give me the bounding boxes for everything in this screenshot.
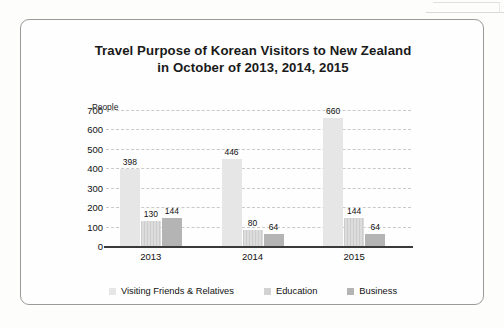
legend-label: Education bbox=[276, 286, 317, 296]
y-axis-tick-labels: 0100200300400500600700 bbox=[73, 110, 103, 246]
bar-value-label: 80 bbox=[248, 218, 257, 228]
bar-value-label: 130 bbox=[144, 209, 158, 219]
bar-value-label: 144 bbox=[165, 206, 179, 216]
x-axis-tick-label: 2013 bbox=[140, 251, 161, 262]
bar[interactable] bbox=[120, 169, 140, 246]
bar-value-label: 144 bbox=[347, 206, 361, 216]
bar[interactable] bbox=[365, 234, 385, 246]
bar[interactable] bbox=[243, 230, 263, 246]
bar[interactable] bbox=[323, 118, 343, 246]
legend-label: Business bbox=[359, 286, 397, 296]
scan-edge-artifact bbox=[433, 2, 500, 12]
bar-value-label: 446 bbox=[224, 147, 238, 157]
bar-group: 4468064 bbox=[222, 110, 284, 246]
y-axis-tick-label: 100 bbox=[87, 221, 103, 232]
legend-label: Visiting Friends & Relatives bbox=[121, 286, 234, 296]
x-axis-tick-labels: 201320142015 bbox=[106, 251, 411, 265]
scan-edge-artifact-line bbox=[426, 12, 504, 13]
plot-area: People 0100200300400500600700 3981301444… bbox=[21, 20, 485, 306]
x-axis-line bbox=[104, 246, 413, 248]
y-axis-tick-label: 500 bbox=[87, 143, 103, 154]
legend-item[interactable]: Education bbox=[264, 286, 317, 296]
bar-value-label: 660 bbox=[326, 106, 340, 116]
x-axis-tick-label: 2014 bbox=[242, 251, 263, 262]
legend-item[interactable]: Visiting Friends & Relatives bbox=[109, 286, 234, 296]
bars-layer: 398130144446806466014464 bbox=[106, 110, 411, 246]
chart-card-frame: Travel Purpose of Korean Visitors to New… bbox=[20, 19, 484, 305]
bar[interactable] bbox=[222, 159, 242, 246]
bar-value-label: 64 bbox=[370, 222, 379, 232]
legend-swatch bbox=[109, 288, 116, 295]
y-axis-tick-label: 0 bbox=[98, 241, 103, 252]
y-axis-tick-label: 200 bbox=[87, 202, 103, 213]
y-axis-tick-label: 600 bbox=[87, 124, 103, 135]
legend-swatch bbox=[347, 288, 354, 295]
bar[interactable] bbox=[264, 234, 284, 246]
y-axis-tick-label: 400 bbox=[87, 163, 103, 174]
bar[interactable] bbox=[344, 218, 364, 246]
bar[interactable] bbox=[162, 218, 182, 246]
y-axis-tick-label: 700 bbox=[87, 105, 103, 116]
legend-swatch bbox=[264, 288, 271, 295]
bar[interactable] bbox=[141, 221, 161, 246]
chart-legend: Visiting Friends & RelativesEducationBus… bbox=[21, 286, 485, 296]
y-axis-tick-label: 300 bbox=[87, 182, 103, 193]
bar-value-label: 64 bbox=[269, 222, 278, 232]
legend-item[interactable]: Business bbox=[347, 286, 397, 296]
x-axis-tick-label: 2015 bbox=[344, 251, 365, 262]
bar-group: 398130144 bbox=[120, 110, 182, 246]
bar-value-label: 398 bbox=[123, 157, 137, 167]
bar-group: 66014464 bbox=[323, 110, 385, 246]
